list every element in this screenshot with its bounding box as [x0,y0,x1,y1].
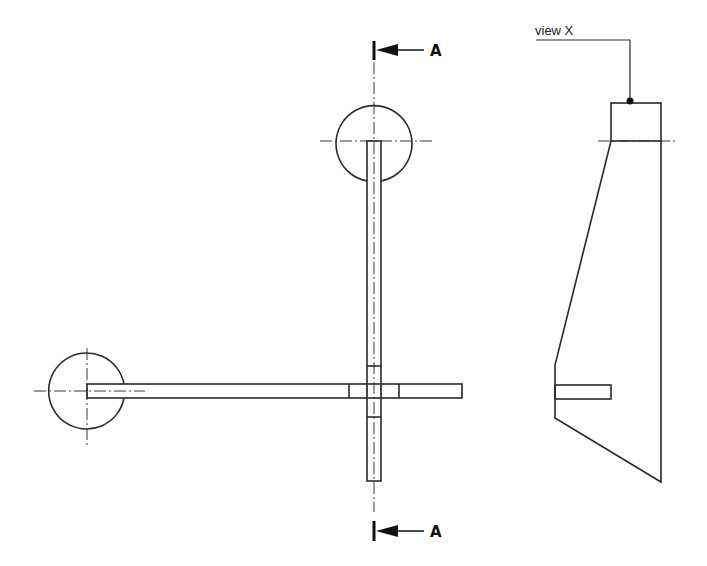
left-circle-hub [34,348,145,446]
section-label-bottom: A [430,523,442,541]
top-circle-hub [320,106,432,181]
section-marker-bottom: A [374,521,442,541]
leader-dot [627,98,634,105]
section-marker-top: A [374,41,442,60]
section-label-top: A [430,42,442,60]
view-x-label: view X [535,23,574,38]
side-view [555,103,678,482]
technical-drawing: A A view X [0,0,707,566]
view-x-callout: view X [535,23,634,105]
